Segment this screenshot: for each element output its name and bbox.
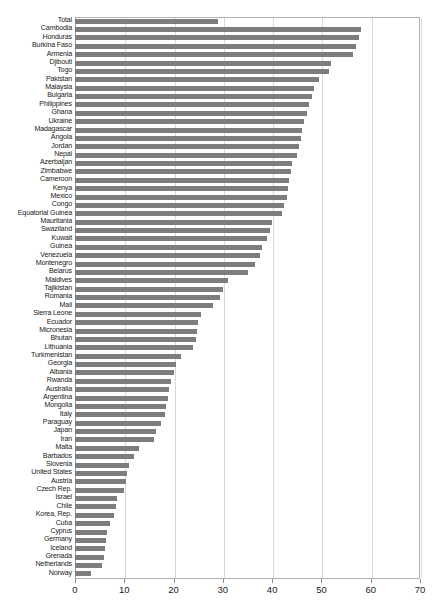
category-label: Israel bbox=[0, 493, 72, 501]
category-label: United States bbox=[0, 468, 72, 476]
bar bbox=[75, 161, 292, 166]
category-label: Iran bbox=[0, 435, 72, 443]
bar bbox=[75, 521, 110, 526]
x-tick-label: 50 bbox=[301, 584, 341, 595]
category-label: Armenia bbox=[0, 50, 72, 58]
category-label: Burkina Faso bbox=[0, 41, 72, 49]
bar bbox=[75, 488, 124, 493]
category-label: Italy bbox=[0, 410, 72, 418]
category-label: Japan bbox=[0, 426, 72, 434]
category-label: Georgia bbox=[0, 359, 72, 367]
category-label: Sierra Leone bbox=[0, 309, 72, 317]
bar bbox=[75, 362, 176, 367]
bar bbox=[75, 253, 260, 258]
category-label: Kuwait bbox=[0, 234, 72, 242]
bar-rows: TotalCambodiaHondurasBurkina FasoArmenia… bbox=[0, 17, 435, 579]
category-label: Total bbox=[0, 16, 72, 24]
bar bbox=[75, 354, 181, 359]
category-label: Austria bbox=[0, 477, 72, 485]
category-label: Barbados bbox=[0, 452, 72, 460]
bar bbox=[75, 44, 356, 49]
bar bbox=[75, 178, 289, 183]
bar bbox=[75, 153, 297, 158]
x-tick-mark bbox=[420, 579, 421, 583]
category-label: Chile bbox=[0, 502, 72, 510]
bar bbox=[75, 86, 314, 91]
x-tick-label: 10 bbox=[104, 584, 144, 595]
bar bbox=[75, 312, 201, 317]
category-label: Bulgaria bbox=[0, 91, 72, 99]
category-label: Mali bbox=[0, 301, 72, 309]
category-label: Rwanda bbox=[0, 376, 72, 384]
category-label: Guinea bbox=[0, 242, 72, 250]
bar bbox=[75, 329, 197, 334]
bar bbox=[75, 35, 359, 40]
bar bbox=[75, 479, 126, 484]
bar bbox=[75, 320, 198, 325]
bar bbox=[75, 370, 174, 375]
bar bbox=[75, 61, 331, 66]
category-label: Djibouti bbox=[0, 58, 72, 66]
bar bbox=[75, 437, 154, 442]
bar bbox=[75, 379, 171, 384]
bar bbox=[75, 102, 309, 107]
bar bbox=[75, 287, 223, 292]
category-label: Czech Rep. bbox=[0, 485, 72, 493]
category-label: Micronesia bbox=[0, 326, 72, 334]
bar bbox=[75, 69, 329, 74]
category-label: Argentina bbox=[0, 393, 72, 401]
category-label: Lithuania bbox=[0, 343, 72, 351]
bar bbox=[75, 77, 319, 82]
category-label: Swaziland bbox=[0, 225, 72, 233]
category-label: Mexico bbox=[0, 192, 72, 200]
bar bbox=[75, 412, 165, 417]
bar bbox=[75, 169, 291, 174]
x-tick-mark bbox=[321, 579, 322, 583]
bar bbox=[75, 128, 302, 133]
bar bbox=[75, 228, 270, 233]
category-label: Norway bbox=[0, 569, 72, 577]
bar bbox=[75, 421, 161, 426]
x-tick-mark bbox=[174, 579, 175, 583]
bar bbox=[75, 144, 299, 149]
bar bbox=[75, 513, 114, 518]
category-label: Tajikistan bbox=[0, 284, 72, 292]
bar bbox=[75, 563, 102, 568]
x-tick-mark bbox=[272, 579, 273, 583]
x-tick-mark bbox=[371, 579, 372, 583]
bar bbox=[75, 504, 116, 509]
bar bbox=[75, 186, 288, 191]
x-tick-label: 60 bbox=[351, 584, 391, 595]
category-label: Mauritania bbox=[0, 217, 72, 225]
category-label: Albania bbox=[0, 368, 72, 376]
x-tick-mark bbox=[223, 579, 224, 583]
bar bbox=[75, 454, 134, 459]
category-label: Kenya bbox=[0, 184, 72, 192]
bar bbox=[75, 211, 282, 216]
category-label: Nepal bbox=[0, 150, 72, 158]
category-label: Madagascar bbox=[0, 125, 72, 133]
category-label: Equatorial Guinea bbox=[0, 209, 72, 217]
category-label: Cameroon bbox=[0, 175, 72, 183]
bar bbox=[75, 295, 220, 300]
bar bbox=[75, 345, 193, 350]
bar bbox=[75, 303, 213, 308]
category-label: Iceland bbox=[0, 544, 72, 552]
bar bbox=[75, 52, 353, 57]
category-label: Ecuador bbox=[0, 318, 72, 326]
category-label: Togo bbox=[0, 66, 72, 74]
x-tick-mark bbox=[124, 579, 125, 583]
bar bbox=[75, 396, 168, 401]
category-label: Turkmenistan bbox=[0, 351, 72, 359]
x-tick-label: 30 bbox=[203, 584, 243, 595]
category-label: Venezuela bbox=[0, 251, 72, 259]
bar bbox=[75, 27, 361, 32]
category-label: Korea, Rep. bbox=[0, 510, 72, 518]
bar bbox=[75, 471, 127, 476]
category-label: Congo bbox=[0, 200, 72, 208]
bar bbox=[75, 546, 105, 551]
category-label: Australia bbox=[0, 385, 72, 393]
bar bbox=[75, 404, 166, 409]
category-label: Maldives bbox=[0, 276, 72, 284]
bar bbox=[75, 337, 196, 342]
